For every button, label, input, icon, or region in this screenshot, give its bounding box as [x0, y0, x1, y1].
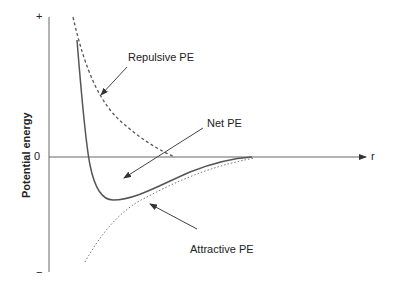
repulsive-pe-label: Repulsive PE — [128, 52, 194, 63]
y-tick-plus: + — [36, 11, 42, 22]
attractive-pe-label: Attractive PE — [190, 244, 254, 255]
y-tick-minus: − — [36, 267, 42, 278]
net-pe-label: Net PE — [207, 118, 242, 129]
repulsive-pe-curve — [73, 17, 175, 157]
x-axis-label: r — [371, 151, 375, 162]
y-tick-zero: 0 — [34, 151, 40, 162]
y-axis-label: Potential energy — [21, 112, 32, 198]
net-arrow — [124, 128, 203, 178]
attractive-arrow — [150, 204, 197, 229]
repulsive-arrow — [101, 67, 127, 95]
